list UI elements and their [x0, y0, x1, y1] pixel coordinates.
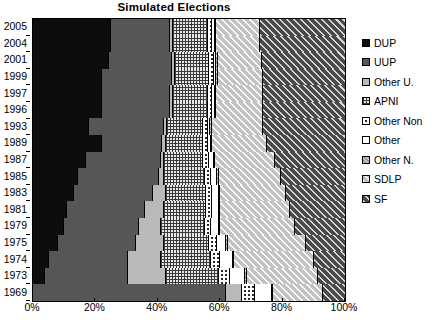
legend-label: DUP: [374, 38, 396, 49]
legend-swatch-icon: [362, 39, 370, 47]
bar-segment-sf: [314, 251, 345, 268]
bar-segment-sf: [267, 135, 345, 152]
bar-segment-sdlp: [215, 152, 274, 169]
bar-segment-other-u: [128, 251, 161, 268]
legend-label: APNI: [374, 96, 399, 107]
y-axis-tick: [26, 184, 30, 185]
bar-segment-sdlp: [247, 268, 319, 285]
bar-segment-apni: [164, 168, 205, 185]
bar-segment-apni: [161, 251, 211, 268]
bar-segment-sf: [318, 268, 345, 285]
y-axis-tick-label: 1981: [4, 204, 27, 215]
bar-segment-dup: [33, 152, 86, 169]
legend-item-sf[interactable]: SF: [362, 189, 434, 209]
bar-segment-apni: [166, 268, 219, 285]
bar-segment-dup: [33, 268, 45, 285]
bar-segment-uup: [102, 102, 171, 119]
bar-segment-apni: [166, 135, 203, 152]
legend-item-sdlp[interactable]: SDLP: [362, 170, 434, 190]
y-axis-tick: [26, 234, 30, 235]
legend-item-other-u[interactable]: Other U.: [362, 72, 434, 92]
bar-segment-sdlp: [220, 218, 295, 235]
bar-segment-sdlp: [218, 69, 263, 86]
bar-segment-apni: [164, 235, 209, 252]
bar-segment-dup: [33, 118, 89, 135]
x-axis-tick-label: 0%: [24, 302, 39, 313]
y-axis-tick-label: 1989: [4, 137, 27, 148]
bar-segment-apni: [166, 185, 207, 202]
y-axis-tick: [26, 267, 30, 268]
bar-segment-other-u: [136, 235, 164, 252]
chart-legend: DUPUUPOther U.APNIOther NonOtherOther N.…: [362, 33, 434, 209]
bar-segment-uup: [67, 201, 145, 218]
bar-segment-sf: [263, 69, 345, 86]
bar-segment-apni: [173, 102, 207, 119]
y-axis-tick: [26, 151, 30, 152]
y-axis-tick-label: 1997: [4, 87, 27, 98]
x-axis: 0%20%40%60%80%100%: [0, 302, 435, 318]
bar-segment-dup: [33, 185, 74, 202]
bar-segment-uup: [49, 251, 129, 268]
y-axis-tick: [26, 200, 30, 201]
legend-item-other-n[interactable]: Other N.: [362, 150, 434, 170]
bar-row: [33, 52, 345, 69]
bar-segment-apni: [173, 85, 207, 102]
y-axis-tick: [26, 283, 30, 284]
bar-segment-sf: [281, 168, 345, 185]
legend-item-other[interactable]: Other: [362, 131, 434, 151]
legend-swatch-icon: [362, 117, 370, 125]
legend-item-other-non[interactable]: Other Non: [362, 111, 434, 131]
bar-segment-sdlp: [218, 52, 262, 69]
legend-swatch-icon: [362, 58, 370, 66]
y-axis-tick-label: 1996: [4, 104, 27, 115]
x-axis-tick: [157, 298, 158, 302]
bar-segment-apni: [173, 19, 207, 36]
x-axis-tick: [94, 298, 95, 302]
bar-segment-sdlp: [219, 168, 281, 185]
y-axis-tick: [26, 84, 30, 85]
bar-segment-sf: [295, 218, 345, 235]
bar-segment-uup: [102, 69, 172, 86]
legend-swatch-icon: [362, 78, 370, 86]
bar-row: [33, 102, 345, 119]
bar-segment-uup: [102, 135, 163, 152]
bar-row: [33, 268, 345, 285]
y-axis-tick: [26, 134, 30, 135]
bar-segment-uup: [111, 19, 170, 36]
bar-row: [33, 19, 345, 36]
legend-item-uup[interactable]: UUP: [362, 53, 434, 73]
legend-item-apni[interactable]: APNI: [362, 92, 434, 112]
bar-segment-other: [220, 251, 232, 268]
y-axis-tick-label: 1974: [4, 253, 27, 264]
bar-segment-uup: [58, 235, 136, 252]
bar-segment-dup: [33, 36, 111, 53]
legend-item-dup[interactable]: DUP: [362, 33, 434, 53]
bar-row: [33, 85, 345, 102]
x-axis-tick: [282, 298, 283, 302]
legend-swatch-icon: [362, 136, 370, 144]
bar-segment-sdlp: [220, 201, 290, 218]
bar-segment-apni: [164, 152, 203, 169]
x-axis-tick-label: 20%: [84, 302, 105, 313]
y-axis-tick-label: 1999: [4, 71, 27, 82]
y-axis-tick-label: 1987: [4, 154, 27, 165]
bar-segment-other-u: [128, 268, 165, 285]
legend-label: Other: [374, 135, 400, 146]
legend-label: Other Non: [374, 116, 422, 127]
y-axis-tick: [26, 118, 30, 119]
bar-segment-other-non: [219, 268, 230, 285]
y-axis-tick-label: 1985: [4, 170, 27, 181]
bar-segment-sdlp: [216, 19, 260, 36]
y-axis-tick: [26, 250, 30, 251]
legend-label: UUP: [374, 57, 396, 68]
bar-segment-uup: [89, 118, 164, 135]
bar-segment-sdlp: [212, 118, 263, 135]
bar-row: [33, 201, 345, 218]
y-axis-tick-label: 2004: [4, 38, 27, 49]
bar-segment-dup: [33, 52, 109, 69]
y-axis-tick: [26, 167, 30, 168]
bar-segment-sf: [263, 102, 345, 119]
bar-segment-other-u: [226, 284, 242, 301]
bar-row: [33, 185, 345, 202]
bar-segment-apni: [161, 218, 205, 235]
